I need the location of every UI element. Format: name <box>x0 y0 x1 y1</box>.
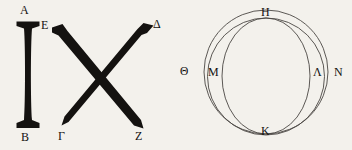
label-z: Z <box>135 130 143 142</box>
left-diagram-column-and-cross: A B E Γ Δ Z <box>0 0 176 150</box>
middle-circle-h-k <box>208 18 325 135</box>
left-diagram-svg <box>0 0 176 150</box>
label-theta: Θ <box>180 66 189 78</box>
label-k: K <box>261 125 270 137</box>
column-ab-shape <box>17 22 40 129</box>
right-diagram-three-circles: Θ M H Λ N K <box>176 0 352 150</box>
cross-stroke-delta-gamma <box>62 23 154 126</box>
geometric-figure-image: A B E Γ Δ Z Θ M H Λ N K <box>0 0 352 150</box>
label-m: M <box>208 66 219 78</box>
label-n: N <box>334 66 343 78</box>
label-lambda: Λ <box>313 66 322 78</box>
label-h: H <box>261 6 270 18</box>
label-delta: Δ <box>153 18 161 30</box>
label-a: A <box>20 4 29 16</box>
label-e: E <box>41 19 49 31</box>
label-b: B <box>21 131 29 143</box>
label-gamma: Γ <box>58 130 65 142</box>
inner-circle-m-lambda <box>222 18 310 134</box>
